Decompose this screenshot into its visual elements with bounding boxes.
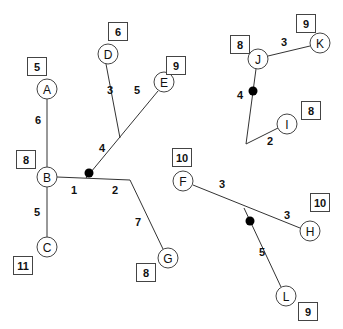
edge-weight-label: 4	[237, 89, 244, 101]
node-label: G	[163, 252, 172, 266]
value-box-text: 10	[314, 197, 326, 209]
node-label: D	[104, 48, 113, 62]
node-label: E	[160, 76, 168, 90]
node-h: H	[300, 221, 320, 241]
node-label: A	[43, 83, 51, 97]
value-box-text: 8	[23, 154, 29, 166]
tree-diagram: 65127354335342 ABCDEGFHLJKI 581169810109…	[0, 0, 343, 329]
edge-weight-label: 3	[107, 84, 113, 96]
edge-j-i	[246, 69, 278, 144]
edge-weight-label: 2	[112, 184, 118, 196]
value-box-text: 8	[308, 105, 314, 117]
node-f: F	[173, 171, 193, 191]
value-box-text: 5	[34, 61, 40, 73]
node-label: F	[179, 175, 186, 189]
value-box-h: 10	[311, 194, 330, 212]
node-b: B	[37, 167, 57, 187]
value-box-text: 8	[143, 267, 149, 279]
edge-weight-label: 5	[134, 84, 140, 96]
node-a: A	[37, 79, 57, 99]
edge-weight-label: 3	[219, 178, 225, 190]
node-label: I	[285, 118, 288, 132]
value-box-text: 8	[237, 39, 243, 51]
value-box-text: 9	[305, 306, 311, 318]
junction-dot	[246, 217, 255, 226]
value-box-text: 9	[173, 60, 179, 72]
node-label: B	[43, 171, 51, 185]
edge-d-junction	[106, 64, 120, 138]
value-box-k: 9	[297, 15, 316, 33]
edge-weight-label: 7	[135, 216, 141, 228]
value-box-d: 6	[109, 23, 128, 41]
value-box-e: 9	[167, 57, 186, 75]
edge-weight-label: 3	[284, 209, 290, 221]
node-label: L	[283, 290, 290, 304]
value-box-l: 9	[299, 303, 318, 321]
edge-weight-label: 6	[35, 114, 41, 126]
value-box-i: 8	[302, 102, 321, 120]
node-g: G	[158, 248, 178, 268]
value-box-text: 10	[176, 152, 188, 164]
node-i: I	[277, 114, 297, 134]
node-label: J	[255, 53, 261, 67]
value-box-j: 8	[231, 36, 250, 54]
node-label: K	[316, 37, 324, 51]
junction-dot	[249, 87, 258, 96]
value-box-b: 8	[17, 151, 36, 169]
edge-j-k	[268, 46, 310, 56]
edge-weight-label: 5	[34, 206, 40, 218]
edge-weight-label: 3	[281, 36, 287, 48]
node-label: C	[43, 241, 52, 255]
junction-dots	[85, 87, 258, 226]
value-boxes: 581169810109898	[14, 15, 330, 321]
value-box-a: 5	[28, 58, 47, 76]
edge-weight-label: 5	[259, 246, 265, 258]
node-k: K	[310, 33, 330, 53]
value-box-text: 6	[115, 26, 121, 38]
node-j: J	[248, 49, 268, 69]
edge-e-dot	[86, 91, 158, 178]
edge-weight-label: 1	[71, 184, 77, 196]
junction-dot	[85, 169, 94, 178]
value-box-text: 9	[303, 18, 309, 30]
node-l: L	[276, 286, 296, 306]
value-box-g: 8	[137, 264, 156, 282]
edge-weight-label: 4	[99, 142, 106, 154]
value-box-f: 10	[173, 149, 192, 167]
value-box-text: 11	[17, 260, 29, 272]
node-d: D	[98, 44, 118, 64]
value-box-c: 11	[14, 257, 33, 275]
edge-weight-label: 2	[267, 135, 273, 147]
node-label: H	[306, 225, 315, 239]
node-c: C	[37, 237, 57, 257]
